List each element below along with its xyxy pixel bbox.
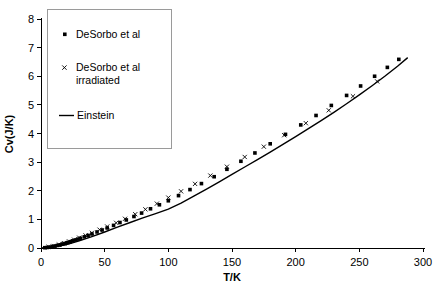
data-point [253, 151, 257, 155]
y-axis-title-group: Cv(J/K) [3, 114, 15, 153]
legend-label-desorbo-irradiated: DeSorbo et al [76, 61, 140, 73]
y-tick-label: 4 [28, 128, 34, 140]
x-tick-label: 250 [350, 256, 368, 268]
data-point [397, 58, 401, 62]
legend-label-einstein: Einstein [77, 109, 115, 121]
data-point [359, 84, 363, 88]
data-point [314, 114, 318, 118]
data-point [140, 211, 144, 215]
data-point [330, 104, 334, 108]
data-point [373, 74, 377, 78]
data-point [188, 188, 192, 192]
x-tick-label: 300 [414, 256, 432, 268]
chart-root: 012345678050100150200250300 Cv(J/K) T/K … [0, 0, 448, 289]
data-point [239, 159, 243, 163]
y-tick-label: 1 [28, 213, 34, 225]
y-tick-label: 8 [28, 13, 34, 25]
data-point [268, 142, 272, 146]
x-tick-label: 0 [38, 256, 44, 268]
data-point [149, 207, 153, 211]
legend-label-desorbo: DeSorbo et al [76, 28, 140, 40]
x-tick-label: 200 [286, 256, 304, 268]
x-axis-title-group: T/K [223, 271, 241, 283]
data-point [299, 123, 303, 127]
x-axis-title: T/K [223, 271, 241, 283]
data-point [177, 194, 181, 198]
cv-vs-temperature-chart: 012345678050100150200250300 Cv(J/K) T/K … [0, 0, 448, 289]
data-point [200, 182, 204, 186]
legend-label-desorbo-irradiated-line2: irradiated [76, 74, 120, 86]
y-tick-label: 5 [28, 99, 34, 111]
y-tick-label: 2 [28, 185, 34, 197]
legend-marker-filled-square [63, 33, 67, 37]
data-point [386, 66, 390, 70]
chart-legend[interactable]: DeSorbo et al DeSorbo et al irradiated E… [47, 9, 171, 148]
data-point [212, 175, 216, 179]
y-tick-label: 0 [28, 242, 34, 254]
x-tick-label: 150 [223, 256, 241, 268]
x-tick-label: 100 [159, 256, 177, 268]
y-tick-label: 3 [28, 156, 34, 168]
data-point [118, 221, 122, 225]
x-tick-label: 50 [99, 256, 111, 268]
y-tick-label: 7 [28, 42, 34, 54]
y-axis-title: Cv(J/K) [3, 114, 15, 153]
y-tick-label: 6 [28, 70, 34, 82]
data-point [345, 94, 349, 98]
